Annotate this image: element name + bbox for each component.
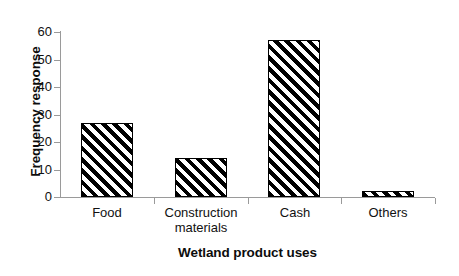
y-axis-tick-label-text: 50: [6, 53, 52, 66]
x-axis-tick-mark: [341, 198, 342, 204]
x-axis-tick-mark: [248, 198, 249, 204]
x-axis-tick-mark: [435, 198, 436, 204]
x-axis-category-label-line: Others: [341, 205, 435, 220]
x-axis-category-label-line: Construction: [154, 205, 248, 220]
y-axis-tick-label-text: 20: [6, 135, 52, 148]
bar: [362, 191, 414, 197]
x-axis-category-label: Others: [341, 205, 435, 220]
bar: [268, 40, 320, 197]
y-axis-tick-label-text: 0: [6, 190, 52, 203]
x-axis-category-label: Cash: [248, 205, 342, 220]
x-axis-title: Wetland product uses: [60, 245, 435, 260]
bar-chart: Frequency response 6050403020100 FoodCon…: [0, 0, 459, 276]
x-axis-category-label: Food: [60, 205, 154, 220]
y-axis-tick-label-text: 30: [6, 108, 52, 121]
bar: [175, 158, 227, 197]
x-axis-category-label-line: Cash: [248, 205, 342, 220]
y-axis-tick-label-text: 40: [6, 80, 52, 93]
x-axis-category-label-line: materials: [154, 220, 248, 235]
x-axis-tick-mark: [154, 198, 155, 204]
y-axis-tick-label-text: 10: [6, 163, 52, 176]
plot-area: [60, 32, 435, 197]
x-axis-category-label: Constructionmaterials: [154, 205, 248, 235]
x-axis-category-label-line: Food: [60, 205, 154, 220]
y-axis-tick-label-text: 60: [6, 25, 52, 38]
bar: [81, 123, 133, 197]
